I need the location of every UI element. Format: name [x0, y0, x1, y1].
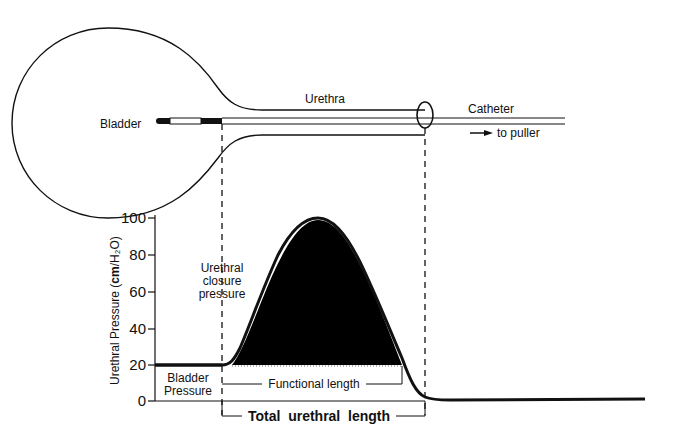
functional-length-bracket: Functional length: [222, 366, 402, 391]
pressure-sensor: [201, 118, 222, 124]
bladder-pressure-label-2: Pressure: [164, 384, 212, 398]
y-tick-100: 100: [121, 209, 146, 226]
y-tick-0: 0: [138, 392, 146, 409]
total-urethral-length-label: Total urethral length: [248, 408, 390, 424]
urethral-closure-label-1: Urethral: [201, 261, 244, 275]
catheter: [156, 118, 565, 124]
catheter-label: Catheter: [468, 102, 514, 116]
urethral-closure-label-3: pressure: [199, 287, 246, 301]
y-tick-20: 20: [129, 356, 146, 373]
bladder-pressure-label-1: Bladder: [167, 371, 208, 385]
urethra-label: Urethra: [305, 92, 345, 106]
arrow-icon: [470, 130, 493, 136]
y-axis-label: Urethral Pressure (cm/H₂O): [108, 236, 122, 385]
total-length-bracket: Total urethral length: [222, 401, 425, 424]
urethral-closure-label-2: closure: [203, 274, 242, 288]
functional-length-label: Functional length: [268, 377, 359, 391]
bladder-label: Bladder: [100, 117, 141, 131]
closure-pressure-area: [232, 220, 402, 365]
urethral-pressure-profile-diagram: Bladder Urethra Catheter to puller 100 8…: [0, 0, 699, 447]
y-tick-80: 80: [129, 246, 146, 263]
y-tick-60: 60: [129, 283, 146, 300]
y-axis: 100 80 60 40 20 0 Urethral Pressure (cm/…: [108, 209, 155, 409]
to-puller-label: to puller: [497, 126, 540, 140]
y-tick-40: 40: [129, 320, 146, 337]
pressure-profile-curve: [155, 218, 645, 400]
